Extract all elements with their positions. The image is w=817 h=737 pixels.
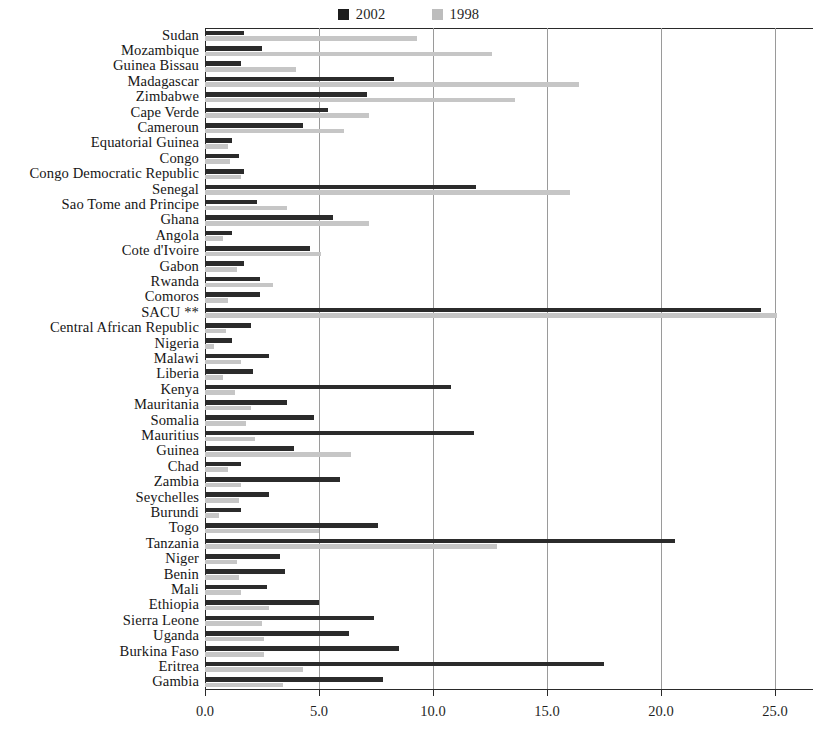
bar-group bbox=[205, 659, 813, 674]
bar-1998 bbox=[205, 267, 237, 272]
bar-1998 bbox=[205, 129, 344, 134]
bar-2002 bbox=[205, 677, 383, 682]
bar-group bbox=[205, 197, 813, 212]
plot-area: 0.05.010.015.020.025.0 bbox=[205, 28, 817, 690]
bar-1998 bbox=[205, 637, 264, 642]
axis-tick-label: 5.0 bbox=[310, 703, 328, 720]
bar-group bbox=[205, 459, 813, 474]
category-label: Cameroun bbox=[137, 120, 199, 135]
bar-2002 bbox=[205, 585, 267, 590]
bar-group bbox=[205, 367, 813, 382]
bar-group bbox=[205, 105, 813, 120]
bar-2002 bbox=[205, 554, 280, 559]
bar-2002 bbox=[205, 631, 349, 636]
category-label: Zambia bbox=[154, 474, 199, 489]
axis-tick-label: 10.0 bbox=[420, 703, 445, 720]
axis-tick-label: 20.0 bbox=[648, 703, 673, 720]
bar-1998 bbox=[205, 575, 239, 580]
category-label: Nigeria bbox=[155, 336, 199, 351]
bar-group bbox=[205, 382, 813, 397]
bar-1998 bbox=[205, 159, 230, 164]
bar-1998 bbox=[205, 590, 241, 595]
bar-1998 bbox=[205, 498, 239, 503]
bar-group bbox=[205, 321, 813, 336]
bar-1998 bbox=[205, 252, 321, 257]
bar-group bbox=[205, 428, 813, 443]
category-label: Congo Democratic Republic bbox=[30, 166, 199, 181]
bar-1998 bbox=[205, 483, 241, 488]
bar-group bbox=[205, 582, 813, 597]
category-label: Chad bbox=[168, 459, 199, 474]
bar-1998 bbox=[205, 283, 273, 288]
category-label: Sierra Leone bbox=[123, 613, 199, 628]
plot-wrapper: SudanMozambiqueGuinea BissauMadagascarZi… bbox=[0, 28, 817, 704]
category-label: Eritrea bbox=[159, 659, 199, 674]
category-label: Somalia bbox=[150, 413, 199, 428]
bar-2002 bbox=[205, 246, 310, 251]
bar-2002 bbox=[205, 523, 378, 528]
bar-1998 bbox=[205, 606, 269, 611]
bar-group bbox=[205, 567, 813, 582]
bar-group bbox=[205, 551, 813, 566]
bar-1998 bbox=[205, 313, 777, 318]
bar-2002 bbox=[205, 215, 333, 220]
bar-1998 bbox=[205, 221, 369, 226]
legend-swatch-2002-icon bbox=[338, 9, 349, 20]
bar-1998 bbox=[205, 175, 241, 180]
axis-tick bbox=[205, 689, 206, 696]
bar-2002 bbox=[205, 108, 328, 113]
bar-group bbox=[205, 274, 813, 289]
bar-group bbox=[205, 598, 813, 613]
bar-1998 bbox=[205, 98, 515, 103]
category-label: Rwanda bbox=[151, 274, 199, 289]
category-label: Ghana bbox=[160, 212, 199, 227]
bar-1998 bbox=[205, 67, 296, 72]
category-label: Senegal bbox=[152, 182, 199, 197]
bar-2002 bbox=[205, 508, 241, 513]
category-label: Burkina Faso bbox=[120, 644, 199, 659]
bar-1998 bbox=[205, 529, 319, 534]
bar-chart: 2002 1998 SudanMozambiqueGuinea BissauMa… bbox=[0, 0, 817, 737]
bar-1998 bbox=[205, 52, 492, 57]
bar-group bbox=[205, 151, 813, 166]
bar-group bbox=[205, 613, 813, 628]
category-label: Uganda bbox=[153, 628, 199, 643]
bar-group bbox=[205, 474, 813, 489]
category-label: Angola bbox=[155, 228, 199, 243]
bar-group bbox=[205, 228, 813, 243]
category-label: Guinea bbox=[156, 443, 199, 458]
bar-2002 bbox=[205, 600, 319, 605]
bar-2002 bbox=[205, 138, 232, 143]
bar-1998 bbox=[205, 652, 264, 657]
bar-1998 bbox=[205, 360, 241, 365]
bar-2002 bbox=[205, 646, 399, 651]
bar-2002 bbox=[205, 323, 251, 328]
category-label: Madagascar bbox=[128, 74, 200, 89]
bar-2002 bbox=[205, 569, 285, 574]
category-label: SACU ** bbox=[141, 305, 199, 320]
bar-1998 bbox=[205, 513, 219, 518]
bar-1998 bbox=[205, 236, 223, 241]
bar-2002 bbox=[205, 185, 476, 190]
bar-group bbox=[205, 43, 813, 58]
category-label: Gabon bbox=[160, 259, 199, 274]
legend-label-1998: 1998 bbox=[450, 6, 480, 23]
bar-1998 bbox=[205, 467, 228, 472]
chart-legend: 2002 1998 bbox=[0, 2, 817, 26]
bar-group bbox=[205, 397, 813, 412]
bar-1998 bbox=[205, 298, 228, 303]
bar-group bbox=[205, 28, 813, 43]
bar-1998 bbox=[205, 544, 497, 549]
bar-1998 bbox=[205, 452, 351, 457]
bar-2002 bbox=[205, 492, 269, 497]
bar-group bbox=[205, 628, 813, 643]
category-label: Malawi bbox=[154, 351, 199, 366]
bar-2002 bbox=[205, 46, 262, 51]
legend-item-1998: 1998 bbox=[432, 6, 480, 23]
axis-tick bbox=[319, 689, 320, 696]
bar-2002 bbox=[205, 400, 287, 405]
bar-2002 bbox=[205, 616, 374, 621]
category-label: Liberia bbox=[156, 366, 199, 381]
bar-1998 bbox=[205, 390, 235, 395]
bar-group bbox=[205, 336, 813, 351]
